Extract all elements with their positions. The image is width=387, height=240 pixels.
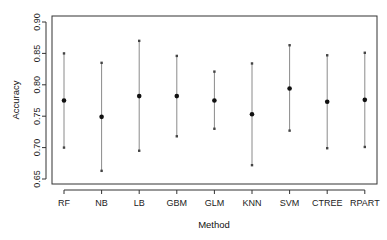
upper-cap [251, 62, 253, 64]
x-tick-label: GLM [205, 198, 225, 208]
lower-cap [63, 146, 65, 148]
x-tick-label: SVM [280, 198, 300, 208]
upper-cap [138, 40, 140, 42]
upper-cap [176, 55, 178, 57]
error-bar-rpart [363, 52, 368, 149]
x-axis-title: Method [198, 219, 230, 230]
y-tick-label: 0.90 [32, 13, 42, 31]
lower-cap [326, 147, 328, 149]
error-bar-glm [212, 70, 217, 130]
upper-cap [288, 44, 290, 46]
upper-cap [63, 52, 65, 54]
error-bar-rf [62, 52, 67, 149]
error-bar-gbm [175, 55, 180, 138]
y-axis-title: Accuracy [10, 80, 21, 119]
mean-point [325, 99, 330, 104]
x-tick-label: RF [58, 198, 70, 208]
y-axis: 0.650.700.750.800.850.90 [32, 13, 46, 188]
lower-cap [288, 129, 290, 131]
mean-point [363, 98, 368, 103]
error-bar-knn [250, 62, 255, 166]
error-bar-ctree [325, 54, 330, 149]
lower-cap [364, 146, 366, 148]
x-tick-label: GBM [167, 198, 188, 208]
x-tick-label: LB [134, 198, 145, 208]
lower-cap [213, 128, 215, 130]
upper-cap [326, 54, 328, 56]
upper-cap [100, 62, 102, 64]
mean-point [175, 94, 180, 99]
y-tick-label: 0.65 [32, 170, 42, 188]
x-tick-label: RPART [350, 198, 380, 208]
mean-point [212, 98, 217, 103]
mean-point [99, 115, 104, 120]
y-tick-label: 0.75 [32, 107, 42, 125]
x-tick-label: CTREE [312, 198, 343, 208]
y-tick-label: 0.85 [32, 45, 42, 63]
x-tick-label: NB [95, 198, 108, 208]
error-bar-lb [137, 40, 142, 152]
x-axis: RFNBLBGBMGLMKNNSVMCTREERPART [58, 190, 380, 208]
lower-cap [251, 164, 253, 166]
error-bars [62, 40, 367, 172]
y-tick-label: 0.80 [32, 76, 42, 94]
lower-cap [176, 135, 178, 137]
upper-cap [213, 70, 215, 72]
lower-cap [100, 170, 102, 172]
lower-cap [138, 150, 140, 152]
error-bar-nb [99, 62, 104, 172]
mean-point [62, 98, 67, 103]
x-tick-label: KNN [242, 198, 261, 208]
y-tick-label: 0.70 [32, 139, 42, 157]
upper-cap [364, 52, 366, 54]
accuracy-errorbar-chart: 0.650.700.750.800.850.90 RFNBLBGBMGLMKNN… [0, 0, 387, 240]
error-bar-svm [287, 44, 292, 132]
mean-point [287, 86, 292, 91]
mean-point [137, 94, 142, 99]
mean-point [250, 112, 255, 117]
